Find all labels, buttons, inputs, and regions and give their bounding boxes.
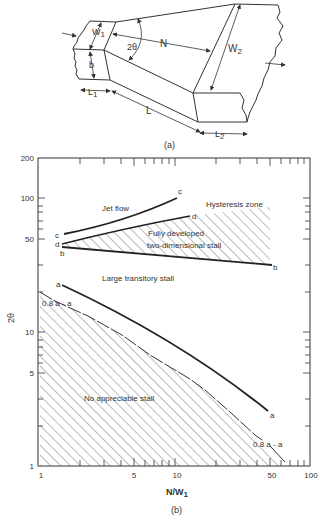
label-d-end: d [192,212,196,221]
label-d-start: d [55,240,59,249]
figure: W1 b 2θ N W2 L1 L L2 (a) [0,0,325,521]
inlet-break-edge [73,21,90,79]
caption-a: (a) [164,140,175,150]
y-axis-label: 2θ [6,313,16,323]
stall-chart: 200 100 50 10 5 1 1 5 10 50 100 2θ N/W1 … [6,154,318,515]
x-tick-labels: 1 5 10 50 100 [39,471,318,480]
dimension-lines [62,5,285,134]
svg-text:50: 50 [25,235,34,244]
theta-arc [129,19,141,60]
region-large-transitory: Large transitory stall [102,274,174,283]
svg-text:100: 100 [21,194,35,203]
theta-label: 2θ [127,42,137,52]
x-axis-label: N/W1 [166,487,189,499]
svg-text:1: 1 [39,471,44,480]
l1-label: L1 [88,87,98,99]
diagram-labels: W1 b 2θ N W2 L1 L L2 (a) [88,27,242,150]
svg-text:5: 5 [30,369,35,378]
region-fully-developed-2: two-dimensional stall [147,241,221,250]
svg-text:5: 5 [132,471,137,480]
region-hysteresis: Hysteresis zone [206,200,263,209]
y-tick-labels: 200 100 50 10 5 1 [21,154,35,471]
label-08a-end: 0.8 a - a [253,440,283,449]
w1-label: W1 [92,27,106,39]
label-a-start: a [56,280,61,289]
svg-text:50: 50 [268,471,277,480]
flow-in-arrow [62,33,76,36]
svg-text:100: 100 [304,471,318,480]
label-a-end: a [270,411,275,420]
label-c-start: c [55,231,59,240]
svg-text:10: 10 [25,328,34,337]
b-label: b [89,60,94,70]
label-b-end: b [273,263,278,272]
l2-label: L2 [215,129,225,141]
w2-label: W2 [228,43,242,56]
caption-b: (b) [171,505,182,515]
svg-text:200: 200 [21,154,35,163]
l-dimension [112,91,200,132]
diffuser-diagram [73,4,283,122]
region-jet-flow: Jet flow [102,204,129,213]
svg-text:10: 10 [173,471,182,480]
l-label: L [146,105,152,116]
label-b-start: b [60,249,65,258]
label-c-end: c [178,187,182,196]
label-08a-start: 0.8 a - a [42,299,72,308]
region-no-stall: No appreciable stall [84,394,154,403]
region-fully-developed-1: Fully developed [148,229,204,238]
flow-out-arrow [265,63,285,65]
n-label: N [160,38,167,49]
no-stall-region [40,292,285,466]
svg-text:1: 1 [30,462,35,471]
outlet-break-edge [247,5,283,122]
